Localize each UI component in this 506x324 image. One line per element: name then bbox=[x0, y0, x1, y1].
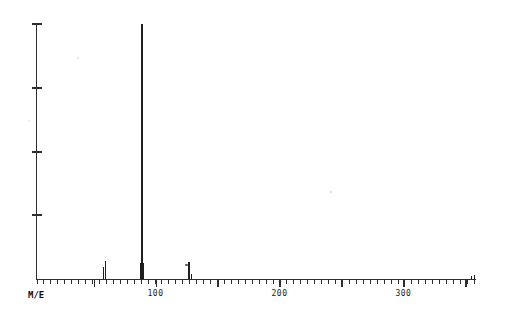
scan-speck bbox=[330, 191, 332, 193]
x-minor-tick bbox=[363, 280, 364, 284]
x-major-tick bbox=[156, 280, 157, 287]
x-minor-tick bbox=[189, 280, 190, 284]
x-minor-tick bbox=[245, 280, 246, 284]
x-minor-tick bbox=[182, 280, 183, 284]
x-minor-tick bbox=[467, 280, 468, 284]
peak-bar bbox=[105, 261, 106, 279]
x-minor-tick bbox=[134, 280, 135, 284]
x-minor-tick bbox=[43, 280, 44, 284]
peak-bar bbox=[188, 262, 189, 279]
scanned-spectrum-page: 100200300 M/E bbox=[0, 0, 506, 324]
x-major-tick bbox=[403, 280, 404, 287]
x-minor-tick bbox=[460, 280, 461, 284]
x-minor-tick bbox=[85, 280, 86, 284]
x-minor-tick bbox=[384, 280, 385, 284]
x-tick-label: 100 bbox=[148, 290, 164, 298]
x-minor-tick bbox=[425, 280, 426, 284]
x-minor-tick bbox=[210, 280, 211, 284]
mass-spectrum-plot: 100200300 M/E bbox=[0, 0, 506, 324]
y-tick bbox=[32, 214, 42, 216]
x-minor-tick bbox=[273, 280, 274, 284]
y-tick bbox=[32, 87, 42, 89]
x-minor-tick bbox=[370, 280, 371, 284]
x-minor-tick bbox=[321, 280, 322, 284]
x-minor-tick bbox=[259, 280, 260, 284]
x-major-tick bbox=[341, 280, 342, 287]
x-minor-tick bbox=[335, 280, 336, 284]
x-minor-tick bbox=[196, 280, 197, 284]
x-minor-tick bbox=[148, 280, 149, 284]
x-major-tick bbox=[217, 280, 218, 287]
x-tick-label: 300 bbox=[395, 290, 411, 298]
x-minor-tick bbox=[168, 280, 169, 284]
x-minor-tick bbox=[161, 280, 162, 284]
y-tick bbox=[32, 23, 42, 25]
x-minor-tick bbox=[439, 280, 440, 284]
peak-bar bbox=[191, 274, 192, 279]
x-minor-tick bbox=[78, 280, 79, 284]
x-minor-tick bbox=[238, 280, 239, 284]
x-minor-tick bbox=[398, 280, 399, 284]
x-minor-tick bbox=[113, 280, 114, 284]
x-minor-tick bbox=[71, 280, 72, 284]
peak-bar bbox=[474, 275, 475, 279]
x-minor-tick bbox=[203, 280, 204, 284]
peak-bar bbox=[471, 276, 472, 279]
x-minor-tick bbox=[141, 280, 142, 284]
x-minor-tick bbox=[64, 280, 65, 284]
scan-speck bbox=[28, 120, 30, 122]
x-minor-tick bbox=[231, 280, 232, 284]
x-minor-tick bbox=[356, 280, 357, 284]
x-minor-tick bbox=[411, 280, 412, 284]
x-minor-tick bbox=[175, 280, 176, 284]
x-minor-tick bbox=[349, 280, 350, 284]
x-minor-tick bbox=[314, 280, 315, 284]
x-minor-tick bbox=[50, 280, 51, 284]
x-major-tick bbox=[94, 280, 95, 287]
x-minor-tick bbox=[446, 280, 447, 284]
peak-bar bbox=[103, 267, 104, 279]
scan-speck bbox=[185, 264, 188, 266]
x-minor-tick bbox=[106, 280, 107, 284]
x-minor-tick bbox=[453, 280, 454, 284]
y-tick bbox=[32, 151, 42, 153]
base-peak-bar bbox=[141, 24, 143, 279]
x-minor-tick bbox=[328, 280, 329, 284]
x-tick-label: 200 bbox=[271, 290, 287, 298]
x-minor-tick bbox=[418, 280, 419, 284]
x-minor-tick bbox=[266, 280, 267, 284]
x-minor-tick bbox=[252, 280, 253, 284]
peak-bar bbox=[143, 263, 144, 279]
x-major-tick bbox=[465, 280, 466, 287]
x-minor-tick bbox=[127, 280, 128, 284]
x-minor-tick bbox=[377, 280, 378, 284]
x-minor-tick bbox=[37, 280, 38, 284]
x-minor-tick bbox=[224, 280, 225, 284]
x-minor-tick bbox=[57, 280, 58, 284]
x-minor-tick bbox=[120, 280, 121, 284]
x-minor-tick bbox=[99, 280, 100, 284]
x-minor-tick bbox=[432, 280, 433, 284]
x-major-tick bbox=[279, 280, 280, 287]
x-axis-title: M/E bbox=[28, 291, 44, 300]
x-minor-tick bbox=[300, 280, 301, 284]
x-minor-tick bbox=[391, 280, 392, 284]
x-minor-tick bbox=[293, 280, 294, 284]
x-minor-tick bbox=[286, 280, 287, 284]
x-minor-tick bbox=[474, 280, 475, 284]
scan-speck bbox=[77, 57, 79, 59]
x-minor-tick bbox=[307, 280, 308, 284]
